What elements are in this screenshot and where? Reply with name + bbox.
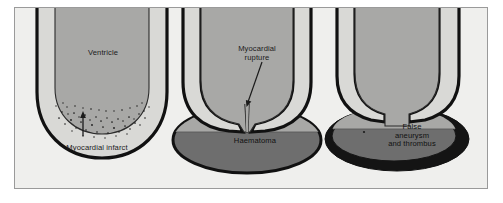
figure-root: Ventricle Myocardial infarct Myocardial … xyxy=(0,0,503,203)
panel-infarct xyxy=(37,8,167,158)
diagram-canvas xyxy=(15,8,487,188)
thrombus-stipple xyxy=(363,131,365,133)
panel-false-aneurysm xyxy=(325,8,469,171)
diagram-frame: Ventricle Myocardial infarct Myocardial … xyxy=(14,7,488,189)
panel-rupture xyxy=(173,8,321,173)
endocardium-line xyxy=(55,8,149,134)
